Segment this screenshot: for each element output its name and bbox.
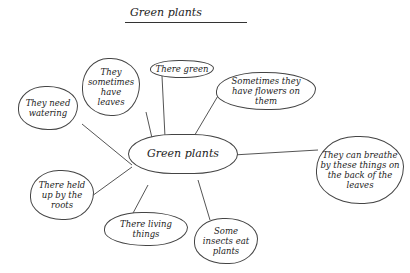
cloud-green: There green — [150, 60, 214, 78]
cloud-living: There living things — [104, 212, 188, 246]
cloud-roots: There held up by the roots — [30, 170, 94, 220]
cloud-breathe: They can breathe by these things on the … — [316, 136, 404, 204]
title-underline — [125, 22, 247, 23]
cloud-watering: They need watering — [18, 86, 78, 130]
cloud-leaves: They sometimes have leaves — [82, 58, 140, 116]
page-title: Green plants — [130, 6, 202, 19]
center-cloud: Green plants — [128, 134, 238, 174]
cloud-insects: Some insects eat plants — [194, 218, 258, 264]
cloud-flowers: Sometimes they have flowers on them — [216, 72, 316, 110]
